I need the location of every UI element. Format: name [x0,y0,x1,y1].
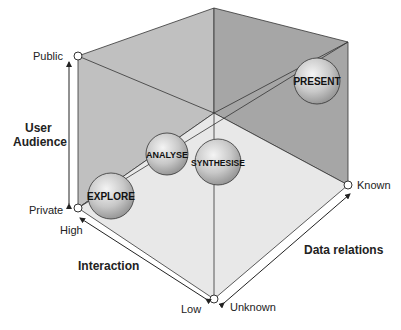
user-audience-title-line1: User [25,121,52,135]
corner-public [74,52,82,60]
interaction-title: Interaction [78,259,139,273]
svg-text:PRESENT: PRESENT [293,76,340,87]
public-label: Public [33,50,63,62]
stage-analyse: ANALYSE [146,133,188,175]
cube-diagram: Public Private User Audience High Intera… [0,0,401,330]
known-label: Known [357,179,391,191]
data-relations-title: Data relations [304,243,384,257]
unknown-label: Unknown [230,301,276,313]
user-audience-title-line2: Audience [13,135,67,149]
private-label: Private [29,204,63,216]
svg-text:EXPLORE: EXPLORE [87,191,135,202]
corner-unknown [210,295,218,303]
stage-present: PRESENT [293,58,340,104]
high-label: High [60,224,83,236]
svg-text:ANALYSE: ANALYSE [146,150,188,160]
low-label: Low [181,303,201,315]
corner-private [74,204,82,212]
svg-text:SYNTHESISE: SYNTHESISE [191,158,245,168]
corner-known [344,181,352,189]
